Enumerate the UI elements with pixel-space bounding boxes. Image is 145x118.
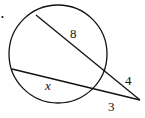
- label-lower-outer: 3: [108, 99, 115, 114]
- label-upper-inner: 8: [70, 26, 77, 41]
- label-lower-inner: x: [44, 78, 51, 93]
- secant-diagram: 8 4 x 3: [0, 0, 145, 118]
- label-upper-outer: 4: [125, 73, 132, 88]
- bullet-dot: [1, 16, 3, 18]
